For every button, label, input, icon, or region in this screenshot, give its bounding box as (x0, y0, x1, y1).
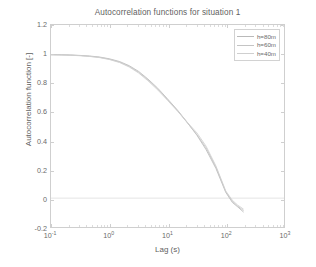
y-tick-mark (51, 112, 54, 113)
x-minor-tick (79, 25, 80, 27)
x-minor-tick (166, 225, 167, 227)
x-minor-tick (127, 225, 128, 227)
x-minor-tick (197, 225, 198, 227)
x-minor-tick (218, 25, 219, 27)
x-minor-tick (214, 225, 215, 227)
legend-item[interactable]: h=80m (237, 33, 276, 41)
x-minor-tick (277, 25, 278, 27)
x-minor-tick (138, 25, 139, 27)
y-tick-label: 0.4 (21, 137, 47, 146)
x-minor-tick (101, 25, 102, 27)
x-minor-tick (214, 25, 215, 27)
x-minor-tick (92, 25, 93, 27)
x-minor-tick (138, 225, 139, 227)
x-tick-label: 10-1 (44, 231, 57, 240)
x-axis-tick-labels: 10-1100101102103 (50, 230, 285, 244)
legend-item-label: h=60m (257, 41, 276, 49)
x-minor-tick (204, 225, 205, 227)
y-tick-label: 0.6 (21, 107, 47, 116)
y-tick-mark (51, 200, 54, 201)
x-minor-tick (97, 25, 98, 27)
legend-line-icon (237, 45, 254, 46)
x-minor-tick (268, 225, 269, 227)
x-tick-mark (227, 224, 228, 227)
chart-title: Autocorrelation functions for situation … (50, 8, 285, 17)
x-minor-tick (69, 225, 70, 227)
x-minor-tick (210, 25, 211, 27)
y-tick-mark (281, 83, 284, 84)
legend-item-label: h=80m (257, 33, 276, 41)
x-minor-tick (280, 225, 281, 227)
legend-line-icon (237, 53, 254, 54)
x-minor-tick (86, 25, 87, 27)
x-minor-tick (283, 25, 284, 27)
x-minor-tick (166, 25, 167, 27)
x-minor-tick (101, 225, 102, 227)
x-minor-tick (273, 25, 274, 27)
x-minor-tick (145, 25, 146, 27)
x-minor-tick (155, 25, 156, 27)
x-tick-mark (227, 25, 228, 28)
x-minor-tick (163, 225, 164, 227)
y-tick-label: 1 (21, 49, 47, 58)
x-minor-tick (245, 225, 246, 227)
x-minor-tick (273, 225, 274, 227)
x-minor-tick (186, 225, 187, 227)
x-minor-tick (245, 25, 246, 27)
x-minor-tick (186, 25, 187, 27)
x-tick-mark (110, 224, 111, 227)
y-tick-mark (51, 83, 54, 84)
x-minor-tick (97, 225, 98, 227)
y-tick-mark (281, 112, 284, 113)
x-minor-tick (127, 25, 128, 27)
y-tick-mark (281, 142, 284, 143)
chart-legend: h=80mh=60mh=40m (234, 29, 280, 61)
x-minor-tick (79, 225, 80, 227)
x-minor-tick (69, 25, 70, 27)
y-axis-tick-labels: -0.200.20.40.60.811.2 (18, 24, 47, 228)
x-minor-tick (151, 25, 152, 27)
x-tick-label: 103 (280, 231, 291, 240)
x-minor-tick (225, 225, 226, 227)
x-minor-tick (145, 225, 146, 227)
x-tick-mark (169, 224, 170, 227)
x-minor-tick (210, 225, 211, 227)
x-minor-tick (104, 225, 105, 227)
y-tick-mark (51, 54, 54, 55)
x-minor-tick (151, 225, 152, 227)
x-minor-tick (268, 25, 269, 27)
x-minor-tick (204, 25, 205, 27)
x-minor-tick (283, 225, 284, 227)
x-minor-tick (222, 25, 223, 27)
x-minor-tick (280, 25, 281, 27)
x-tick-mark (51, 224, 52, 227)
x-minor-tick (159, 225, 160, 227)
x-minor-tick (197, 25, 198, 27)
x-axis-label: Lag (s) (50, 245, 285, 254)
x-minor-tick (86, 225, 87, 227)
y-tick-label: 0 (21, 195, 47, 204)
x-tick-mark (110, 25, 111, 28)
chart-figure: Autocorrelation functions for situation … (0, 0, 316, 267)
plot-area: h=80mh=60mh=40m (50, 24, 285, 228)
y-tick-mark (281, 54, 284, 55)
x-minor-tick (263, 225, 264, 227)
x-minor-tick (163, 25, 164, 27)
legend-item[interactable]: h=60m (237, 41, 276, 49)
y-tick-mark (51, 171, 54, 172)
x-minor-tick (218, 225, 219, 227)
x-tick-label: 100 (103, 231, 114, 240)
y-tick-label: 1.2 (21, 20, 47, 29)
x-minor-tick (107, 25, 108, 27)
x-minor-tick (107, 225, 108, 227)
x-minor-tick (263, 25, 264, 27)
x-minor-tick (104, 25, 105, 27)
series-line (51, 55, 243, 212)
legend-item-label: h=40m (257, 50, 276, 58)
x-minor-tick (159, 25, 160, 27)
y-tick-label: 0.8 (21, 78, 47, 87)
legend-item[interactable]: h=40m (237, 50, 276, 58)
x-minor-tick (92, 225, 93, 227)
x-minor-tick (255, 25, 256, 27)
x-tick-label: 101 (162, 231, 173, 240)
